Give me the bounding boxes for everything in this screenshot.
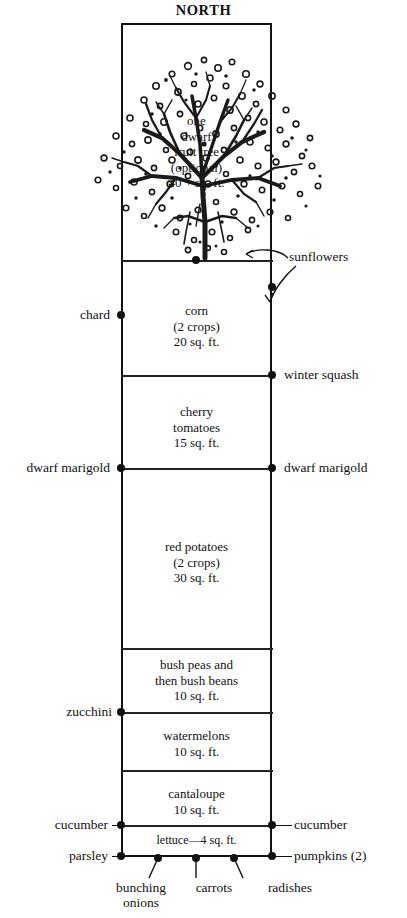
dot-winter-squash bbox=[268, 371, 276, 379]
tick-cucumber-left bbox=[112, 825, 121, 826]
bed-label-cherry-tomatoes: cherry tomatoes 15 sq. ft. bbox=[121, 404, 272, 451]
label-radishes: radishes bbox=[250, 880, 330, 895]
tree-caption: one dwarf fruit tree (optional) 40 + sq.… bbox=[121, 113, 272, 191]
dot-chard bbox=[117, 311, 125, 319]
north-heading: NORTH bbox=[0, 2, 407, 19]
cherry-tomatoes-line-1: cherry bbox=[121, 404, 272, 420]
bush-peas-line-2: then bush beans bbox=[121, 673, 272, 689]
divider-potatoes-peas bbox=[121, 648, 273, 650]
label-parsley: parsley bbox=[16, 849, 108, 863]
bunching-onions-line-2: onions bbox=[123, 895, 159, 910]
bed-label-cantaloupe: cantaloupe 10 sq. ft. bbox=[121, 786, 272, 817]
dot-zucchini bbox=[117, 708, 125, 716]
bed-label-bush-peas-beans: bush peas and then bush beans 10 sq. ft. bbox=[121, 657, 272, 704]
divider-corn-tomatoes bbox=[121, 375, 273, 377]
dot-dwarf-marigold-left bbox=[117, 464, 125, 472]
cantaloupe-line-1: cantaloupe bbox=[121, 786, 272, 802]
garden-plan-diagram: NORTH bbox=[0, 0, 407, 918]
red-potatoes-line-3: 30 sq. ft. bbox=[121, 570, 272, 586]
cherry-tomatoes-line-3: 15 sq. ft. bbox=[121, 435, 272, 451]
tree-caption-line-5: 40 + sq. ft. bbox=[121, 175, 272, 191]
divider-watermelons-cantaloupe bbox=[121, 770, 273, 772]
divider-peas-watermelons bbox=[121, 712, 273, 714]
bed-label-red-potatoes: red potatoes (2 crops) 30 sq. ft. bbox=[121, 539, 272, 586]
corn-line-3: 20 sq. ft. bbox=[121, 334, 272, 350]
label-chard: chard bbox=[18, 308, 110, 322]
watermelons-line-2: 10 sq. ft. bbox=[121, 744, 272, 760]
tick-parsley bbox=[112, 856, 121, 857]
bush-peas-line-3: 10 sq. ft. bbox=[121, 688, 272, 704]
tree-caption-line-2: dwarf bbox=[121, 129, 272, 145]
cherry-tomatoes-line-2: tomatoes bbox=[121, 420, 272, 436]
label-cucumber-left: cucumber bbox=[10, 818, 108, 832]
tree-caption-line-4: (optional) bbox=[121, 160, 272, 176]
lettuce-line-1: lettuce—4 sq. ft. bbox=[121, 833, 272, 847]
dot-sunflower-divider bbox=[192, 256, 200, 264]
bed-label-watermelons: watermelons 10 sq. ft. bbox=[121, 728, 272, 759]
label-bunching-onions: bunching onions bbox=[96, 880, 186, 910]
dot-dwarf-marigold-right bbox=[268, 464, 276, 472]
tree-caption-line-1: one bbox=[121, 113, 272, 129]
label-carrots: carrots bbox=[178, 880, 250, 895]
cantaloupe-line-2: 10 sq. ft. bbox=[121, 802, 272, 818]
label-pumpkins: pumpkins (2) bbox=[294, 849, 366, 863]
dot-sunflower-right-upper bbox=[268, 283, 276, 291]
label-dwarf-marigold-right: dwarf marigold bbox=[284, 461, 368, 475]
bunching-onions-line-1: bunching bbox=[116, 880, 166, 895]
red-potatoes-line-2: (2 crops) bbox=[121, 555, 272, 571]
divider-cantaloupe-lettuce bbox=[121, 825, 273, 827]
red-potatoes-line-1: red potatoes bbox=[121, 539, 272, 555]
bed-label-lettuce: lettuce—4 sq. ft. bbox=[121, 833, 272, 847]
label-dwarf-marigold-left: dwarf marigold bbox=[6, 461, 110, 475]
watermelons-line-1: watermelons bbox=[121, 728, 272, 744]
divider-tomatoes-potatoes bbox=[121, 468, 273, 470]
tree-caption-line-3: fruit tree bbox=[121, 144, 272, 160]
label-winter-squash: winter squash bbox=[284, 368, 359, 382]
label-zucchini: zucchini bbox=[20, 705, 112, 719]
tick-cucumber-right bbox=[272, 825, 292, 826]
corn-line-2: (2 crops) bbox=[121, 319, 272, 335]
bush-peas-line-1: bush peas and bbox=[121, 657, 272, 673]
sunflowers-arrows bbox=[240, 236, 350, 316]
label-cucumber-right: cucumber bbox=[294, 818, 347, 832]
